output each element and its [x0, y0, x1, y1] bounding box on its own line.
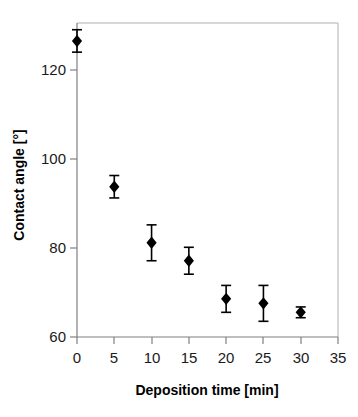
y-tick-label-100: 100: [41, 150, 66, 167]
y-tick-label-80: 80: [49, 239, 66, 256]
x-tick-label-20: 20: [218, 349, 235, 366]
y-axis-title: Contact angle [°]: [11, 129, 27, 240]
x-tick-label-30: 30: [293, 349, 310, 366]
y-tick-label-120: 120: [41, 61, 66, 78]
x-tick-label-10: 10: [144, 349, 161, 366]
x-tick-label-0: 0: [73, 349, 81, 366]
y-tick-label-60: 60: [49, 328, 66, 345]
contact-angle-scatter-chart: 120 100 80 60 Contact angle [°] 0: [0, 0, 358, 417]
x-tick-label-25: 25: [255, 349, 272, 366]
x-tick-label-5: 5: [110, 349, 118, 366]
x-tick-label-15: 15: [181, 349, 198, 366]
chart-figure: 120 100 80 60 Contact angle [°] 0: [0, 0, 358, 417]
x-tick-label-35: 35: [330, 349, 347, 366]
x-axis-title: Deposition time [min]: [135, 382, 278, 398]
